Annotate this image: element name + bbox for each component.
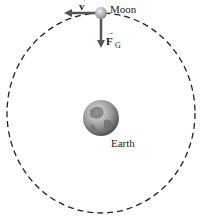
force-subscript: G	[115, 41, 121, 50]
moon-label: Moon	[110, 4, 136, 15]
earth	[83, 100, 119, 136]
earth-label: Earth	[111, 138, 135, 149]
force-arrow	[97, 16, 105, 48]
orbit-diagram	[0, 0, 202, 219]
force-label: → F G	[106, 36, 121, 50]
velocity-label: → v	[79, 1, 85, 12]
moon	[95, 7, 107, 19]
